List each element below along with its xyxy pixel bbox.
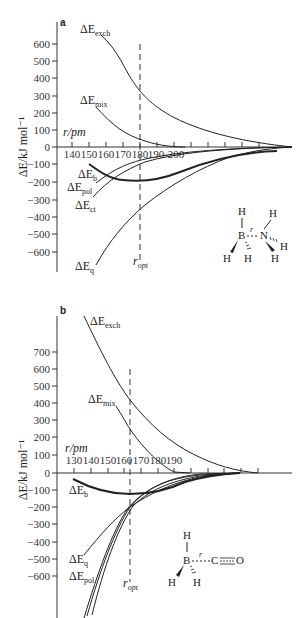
label-exch-a: ΔEexch <box>80 22 110 38</box>
ytick: −200 <box>27 501 50 513</box>
y-axis-label-b: ΔE/kJ mol⁻¹ <box>16 439 30 500</box>
ytick: −300 <box>27 194 50 206</box>
ytick: −400 <box>27 211 50 223</box>
ytick: −100 <box>27 484 50 496</box>
svg-text:r: r <box>199 550 203 559</box>
figure: a 600 500 400 300 200 100 0 −100 −200 −3… <box>0 0 306 618</box>
x-tick-labels-b: 130 140 150 160 170 180 190 <box>66 454 183 466</box>
ytick: −600 <box>27 570 50 582</box>
xtick: 150 <box>100 454 117 466</box>
curve-ct-b <box>92 473 240 615</box>
y-tick-labels-b: 700 600 500 400 300 200 100 0 −100 −200 … <box>27 346 50 582</box>
ytick: 600 <box>34 38 51 50</box>
svg-text:H: H <box>168 576 176 588</box>
molecule-bh3-nh3: H B H H r N H H H <box>223 205 288 264</box>
svg-text:H: H <box>183 529 191 541</box>
y-ticks-b <box>52 352 57 576</box>
panel-b: b 700 600 500 400 300 200 100 0 −100 −20… <box>16 305 292 618</box>
ytick: 100 <box>34 449 51 461</box>
xtick: 160 <box>98 148 115 160</box>
curve-pol-b-2 <box>84 473 240 618</box>
svg-text:B: B <box>183 554 190 566</box>
xtick: 170 <box>133 454 150 466</box>
svg-text:H: H <box>244 252 252 264</box>
svg-text:H: H <box>280 240 288 252</box>
curve-exch-b <box>84 316 258 473</box>
ytick: −400 <box>27 536 50 548</box>
y-axis-label-a: ΔE/kJ mol⁻¹ <box>16 116 30 177</box>
label-pol-b: ΔEpol <box>69 569 95 585</box>
label-mix-a: ΔEmix <box>80 93 108 109</box>
ytick: 700 <box>34 346 51 358</box>
ytick: 400 <box>34 72 51 84</box>
r-opt-label-b: ropt <box>123 576 139 592</box>
ytick: 500 <box>34 55 51 67</box>
label-pol-a: ΔEpol <box>67 180 93 196</box>
xtick: 190 <box>166 454 183 466</box>
curve-q-b <box>84 473 240 555</box>
ytick: −600 <box>27 246 50 258</box>
svg-text:N: N <box>260 229 268 241</box>
ytick: 400 <box>34 397 51 409</box>
label-mix-b: ΔEmix <box>88 392 116 408</box>
x-tick-labels-a: 140 150 160 170 180 190-200 <box>64 148 185 160</box>
ytick: 300 <box>34 90 51 102</box>
ytick: 100 <box>34 124 51 136</box>
ytick: 0 <box>45 141 51 153</box>
panel-a-letter: a <box>60 17 66 28</box>
label-exch-b: ΔEexch <box>90 314 120 330</box>
label-ct-a: ΔEct <box>75 198 97 214</box>
svg-text:H: H <box>193 576 201 588</box>
ytick: 0 <box>45 467 51 479</box>
ytick: 200 <box>34 431 51 443</box>
label-q-a: ΔEq <box>75 259 94 275</box>
ytick: −300 <box>27 518 50 530</box>
xtick: 140 <box>83 454 100 466</box>
svg-text:H: H <box>223 252 231 264</box>
curve-exch-a <box>101 35 292 147</box>
x-unit-label-b: r/pm <box>65 441 88 455</box>
molecule-bh3-co: H B H H r C O <box>168 529 244 588</box>
ytick: −200 <box>27 176 50 188</box>
svg-text:C: C <box>211 554 218 566</box>
svg-text:B: B <box>238 229 245 241</box>
curve-b-b <box>73 473 240 494</box>
r-opt-label-a: ropt <box>133 254 149 270</box>
xtick: 170 <box>115 148 132 160</box>
label-q-b: ΔEq <box>69 552 88 568</box>
x-ticks-a <box>72 142 259 147</box>
ytick: 500 <box>34 380 51 392</box>
ytick: 600 <box>34 363 51 375</box>
y-ticks-a <box>52 44 57 252</box>
triple-bond <box>220 558 235 564</box>
panel-a: a 600 500 400 300 200 100 0 −100 −200 −3… <box>16 17 292 275</box>
ytick: 200 <box>34 107 51 119</box>
xtick: 140 <box>64 148 81 160</box>
xtick: 150 <box>81 148 98 160</box>
svg-text:O: O <box>236 554 244 566</box>
svg-text:H: H <box>269 207 277 219</box>
ytick: −100 <box>27 158 50 170</box>
svg-text:H: H <box>238 205 246 217</box>
svg-text:H: H <box>271 252 279 264</box>
ytick: 300 <box>34 414 51 426</box>
ytick: −500 <box>27 553 50 565</box>
y-tick-labels-a: 600 500 400 300 200 100 0 −100 −200 −300… <box>27 38 50 258</box>
svg-text:r: r <box>250 225 254 234</box>
xtick: 130 <box>66 454 83 466</box>
x-unit-label-a: r/pm <box>63 125 86 139</box>
curves-b <box>73 316 258 618</box>
ytick: −500 <box>27 228 50 240</box>
panel-b-letter: b <box>60 305 66 316</box>
